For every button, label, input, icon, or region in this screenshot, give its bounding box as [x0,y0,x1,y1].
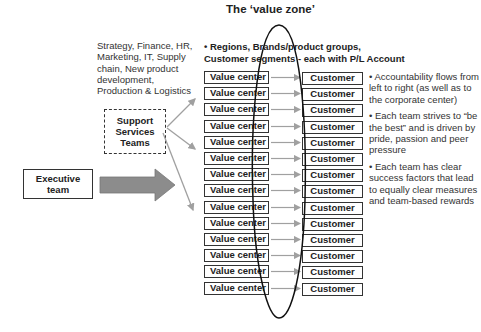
bullet-be-the-best: • Each team strives to “be the best” and… [369,110,481,156]
bullet-list: • Accountability flows from left to righ… [369,71,481,211]
bullet-success-factors: • Each team has clear success factors th… [369,161,481,207]
bullet-accountability: • Accountability flows from left to righ… [369,71,481,105]
value-zone-ellipse [252,25,305,318]
